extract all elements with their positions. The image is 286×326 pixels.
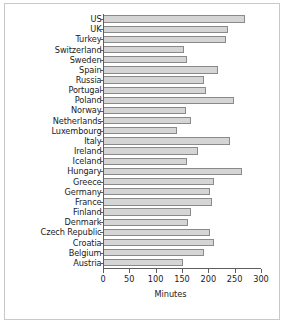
category-label: Austria <box>0 258 102 268</box>
category-label: France <box>0 197 102 207</box>
bar <box>103 66 218 73</box>
bar <box>103 249 204 256</box>
y-axis-tick <box>100 232 104 233</box>
x-axis-tick-label: 300 <box>246 274 276 284</box>
category-label: Luxembourg <box>0 126 102 136</box>
y-axis-tick <box>100 202 104 203</box>
y-axis-tick <box>100 192 104 193</box>
category-label: Turkey <box>0 34 102 44</box>
bar-row: Austria <box>5 258 281 268</box>
bar-row: Portugal <box>5 85 281 95</box>
y-axis-tick <box>100 182 104 183</box>
bar-rows: USUKTurkeySwitzerlandSwedenSpainRussiaPo… <box>5 14 281 268</box>
bar <box>103 15 245 22</box>
y-axis-tick <box>100 151 104 152</box>
bar <box>103 87 206 94</box>
bar <box>103 259 183 266</box>
bar <box>103 46 184 53</box>
category-label: Croatia <box>0 238 102 248</box>
x-axis-title: Minutes <box>5 289 281 299</box>
bar-row: Netherlands <box>5 116 281 126</box>
y-axis-tick <box>100 263 104 264</box>
y-axis-tick <box>100 141 104 142</box>
y-axis-tick <box>100 243 104 244</box>
y-axis-tick <box>100 222 104 223</box>
y-axis-tick <box>100 70 104 71</box>
bar-row: Belgium <box>5 248 281 258</box>
category-label: Hungary <box>0 166 102 176</box>
category-label: Denmark <box>0 217 102 227</box>
category-label: Spain <box>0 65 102 75</box>
bar <box>103 36 226 43</box>
y-axis-tick <box>100 60 104 61</box>
bar-row: Denmark <box>5 217 281 227</box>
bar-row: France <box>5 197 281 207</box>
category-label: Czech Republic <box>0 227 102 237</box>
y-axis-tick <box>100 121 104 122</box>
bar-row: Italy <box>5 136 281 146</box>
category-label: Finland <box>0 207 102 217</box>
category-label: Germany <box>0 187 102 197</box>
bar-row: Hungary <box>5 166 281 176</box>
category-label: Portugal <box>0 85 102 95</box>
category-label: Norway <box>0 105 102 115</box>
bar-row: Czech Republic <box>5 227 281 237</box>
bar <box>103 198 212 205</box>
category-label: Greece <box>0 177 102 187</box>
figure-frame: USUKTurkeySwitzerlandSwedenSpainRussiaPo… <box>4 3 280 320</box>
category-label: Netherlands <box>0 116 102 126</box>
bar-row: Turkey <box>5 34 281 44</box>
category-label: US <box>0 14 102 24</box>
bar-row: Poland <box>5 95 281 105</box>
x-axis-tick <box>156 269 157 273</box>
bar <box>103 56 187 63</box>
bar <box>103 76 204 83</box>
category-label: Ireland <box>0 146 102 156</box>
y-axis-tick <box>100 100 104 101</box>
bar <box>103 97 234 104</box>
y-axis-tick <box>100 131 104 132</box>
y-axis-tick <box>100 161 104 162</box>
y-axis-tick <box>100 39 104 40</box>
category-label: Iceland <box>0 156 102 166</box>
x-axis-tick <box>208 269 209 273</box>
x-axis-tick <box>182 269 183 273</box>
bar <box>103 208 191 215</box>
y-axis-tick <box>100 171 104 172</box>
x-axis-tick <box>235 269 236 273</box>
category-label: Italy <box>0 136 102 146</box>
y-axis-tick <box>100 19 104 20</box>
bar <box>103 127 177 134</box>
bar <box>103 137 230 144</box>
bar-row: Norway <box>5 105 281 115</box>
bar-row: Greece <box>5 177 281 187</box>
category-label: UK <box>0 24 102 34</box>
y-axis-tick <box>100 80 104 81</box>
bar-row: Iceland <box>5 156 281 166</box>
category-label: Switzerland <box>0 45 102 55</box>
bar <box>103 188 210 195</box>
bar <box>103 107 186 114</box>
bar-row: Ireland <box>5 146 281 156</box>
bar-row: US <box>5 14 281 24</box>
x-axis-tick <box>103 269 104 273</box>
category-label: Russia <box>0 75 102 85</box>
bar-row: Luxembourg <box>5 126 281 136</box>
bar-row: Croatia <box>5 237 281 247</box>
bar <box>103 147 198 154</box>
bar <box>103 178 214 185</box>
bar-chart-plot-area: USUKTurkeySwitzerlandSwedenSpainRussiaPo… <box>5 4 281 321</box>
bar-row: UK <box>5 24 281 34</box>
y-axis-line <box>103 14 104 268</box>
category-label: Belgium <box>0 248 102 258</box>
bar <box>103 117 191 124</box>
x-axis-tick <box>129 269 130 273</box>
bar-row: Russia <box>5 75 281 85</box>
bar-row: Germany <box>5 187 281 197</box>
bar <box>103 158 187 165</box>
y-axis-tick <box>100 111 104 112</box>
bar <box>103 168 242 175</box>
bar-row: Sweden <box>5 55 281 65</box>
bar-row: Spain <box>5 65 281 75</box>
y-axis-tick <box>100 29 104 30</box>
